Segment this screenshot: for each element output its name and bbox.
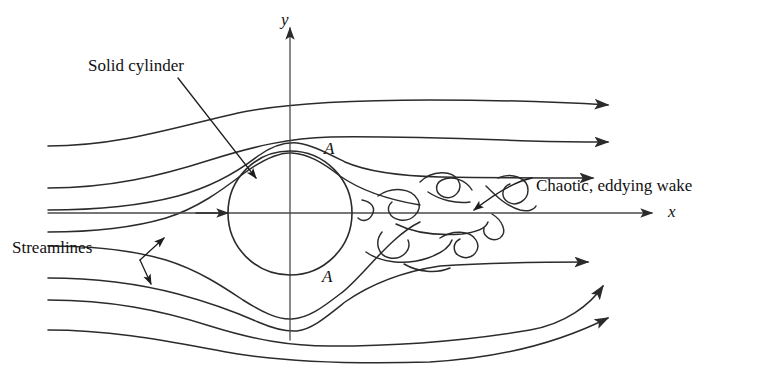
streamlines-caliper-lower [140, 260, 151, 284]
x-axis-label: x [668, 202, 676, 222]
separation-point-upper-label: A [324, 139, 334, 159]
wake-eddies [358, 173, 536, 272]
eddy-curl-1 [358, 200, 374, 220]
figure-canvas: Solid cylinder Streamlines Chaotic, eddy… [0, 0, 757, 379]
wake-label: Chaotic, eddying wake [536, 176, 692, 196]
y-axis-label: y [281, 10, 289, 30]
eddy-curl-3 [378, 232, 409, 258]
eddy-curl-9 [440, 232, 478, 257]
streamline-separating-lower [48, 222, 420, 319]
streamline-inner-upper [48, 143, 593, 210]
separation-point-lower-label: A [322, 267, 332, 287]
streamline-outer-lower-1 [48, 318, 608, 363]
streamline-inner-lower [48, 262, 588, 331]
eddy-curl-2 [378, 190, 419, 221]
eddy-curl-12 [484, 214, 504, 240]
solid-cylinder-label: Solid cylinder [88, 56, 184, 76]
streamlines-label: Streamlines [12, 238, 92, 258]
streamline-outer-lower-2 [48, 286, 603, 346]
solid-cylinder-leader [178, 78, 256, 178]
